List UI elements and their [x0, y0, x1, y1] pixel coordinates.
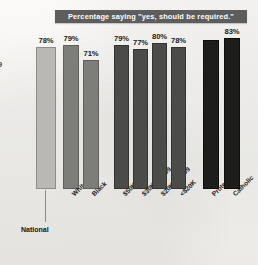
- chart-root: Percentage saying "yes, should be requir…: [0, 0, 258, 265]
- bar-slot: [114, 45, 129, 189]
- bar-20k[interactable]: [171, 47, 186, 189]
- bar-slot: [63, 45, 79, 189]
- plot-area: 78%79%White71%Black79%$50K+77%$30K-49,99…: [0, 0, 258, 200]
- bar-slot: [133, 49, 148, 189]
- bar-value-label: 79%: [111, 35, 132, 43]
- bar-national[interactable]: [36, 47, 56, 189]
- bar-slot: [171, 47, 186, 189]
- bar-black[interactable]: [83, 60, 99, 189]
- bar-slot: [83, 60, 99, 189]
- bar-white[interactable]: [63, 45, 79, 189]
- bar-20k-29-999[interactable]: [152, 43, 167, 189]
- bar-value-label: 71%: [80, 50, 102, 58]
- bar-catholic[interactable]: [224, 38, 240, 189]
- bar-value-label: 78%: [33, 37, 59, 45]
- national-leader-line: [45, 190, 46, 222]
- bar-value-label: 79%: [60, 35, 82, 43]
- bar-value-label: 77%: [130, 39, 151, 47]
- bar-value-label: 83%: [221, 28, 243, 36]
- national-caption: National: [21, 226, 49, 233]
- bar-protestant[interactable]: [203, 40, 219, 189]
- bar-50k[interactable]: [114, 45, 129, 189]
- bar-slot: [203, 40, 219, 189]
- bar-value-label: 78%: [168, 37, 189, 45]
- bar-slot: [224, 38, 240, 189]
- bar-value-label: 80%: [149, 33, 170, 41]
- bar-slot: [36, 47, 56, 189]
- bar-slot: [152, 43, 167, 189]
- bar-30k-49-999[interactable]: [133, 49, 148, 189]
